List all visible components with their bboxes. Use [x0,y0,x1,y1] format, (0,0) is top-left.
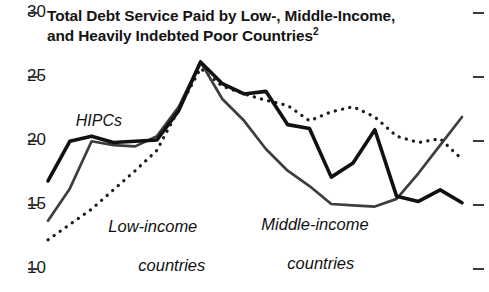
series-annotation-middle-income-line-2: countries [261,254,354,273]
series-annotation-hipcs: HIPCs [58,93,122,150]
series-annotation-hipcs-text: HIPCs [76,112,122,129]
series-annotation-middle-income-line-1: Middle-income [261,215,368,233]
series-annotation-low-income-line-1: Low-income [108,217,197,235]
chart-figure: 30 25 20 15 10 Total Debt Service Paid b… [0,0,489,292]
series-annotation-middle-income: Middle-income countries [243,196,369,292]
series-annotation-low-income: Low-income countries [90,198,205,292]
series-annotation-low-income-line-2: countries [108,256,205,275]
